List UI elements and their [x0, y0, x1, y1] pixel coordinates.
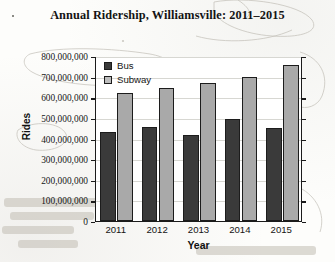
bar-group-2014 — [225, 57, 258, 221]
y-axis-tick-right — [302, 201, 306, 202]
x-axis-tick-label-2013: 2013 — [178, 224, 219, 235]
legend-item-bus: Bus — [104, 60, 151, 71]
y-axis-tick-right — [302, 140, 306, 141]
bar-group-2013 — [183, 57, 216, 221]
y-axis-tick — [91, 181, 95, 182]
y-axis-tick — [91, 140, 95, 141]
legend-swatch-bus-icon — [104, 62, 112, 70]
legend-swatch-subway-icon — [104, 76, 112, 84]
y-axis-tick-right — [302, 57, 306, 58]
bar-subway-2014 — [242, 77, 258, 221]
y-axis-tick — [91, 98, 95, 99]
legend-label-subway: Subway — [117, 74, 151, 85]
x-axis-tick-label-2012: 2012 — [136, 224, 177, 235]
y-axis-tick — [91, 57, 95, 58]
y-axis-tick — [91, 201, 95, 202]
y-axis-tick-right — [302, 181, 306, 182]
legend-label-bus: Bus — [117, 60, 134, 71]
x-axis-tick-label-2015: 2015 — [261, 224, 302, 235]
y-axis-tick — [91, 160, 95, 161]
x-axis-tick-label-2011: 2011 — [95, 224, 136, 235]
y-axis-tick-right — [302, 160, 306, 161]
bar-bus-2014 — [225, 119, 241, 221]
x-axis-title: Year — [95, 239, 302, 251]
bar-subway-2011 — [117, 93, 133, 221]
y-axis-tick-right — [302, 98, 306, 99]
chart-legend: Bus Subway — [104, 60, 151, 85]
y-axis-tick — [91, 222, 95, 223]
y-axis-tick — [91, 78, 95, 79]
bar-subway-2013 — [200, 83, 216, 221]
plot-area-wrapper — [0, 0, 335, 262]
legend-item-subway: Subway — [104, 74, 151, 85]
chart-page: Annual Ridership, Williamsville: 2011–20… — [0, 0, 335, 262]
bar-bus-2011 — [100, 132, 116, 221]
y-axis-tick-right — [302, 119, 306, 120]
y-axis-tick-right — [302, 78, 306, 79]
bar-subway-2015 — [283, 65, 299, 221]
bar-bus-2013 — [183, 135, 199, 221]
bar-group-2015 — [266, 57, 299, 221]
x-axis-tick-label-2014: 2014 — [219, 224, 260, 235]
bar-bus-2015 — [266, 128, 282, 221]
bar-subway-2012 — [159, 88, 175, 221]
y-axis-tick-right — [302, 222, 306, 223]
y-axis-tick — [91, 119, 95, 120]
bar-bus-2012 — [142, 127, 158, 221]
